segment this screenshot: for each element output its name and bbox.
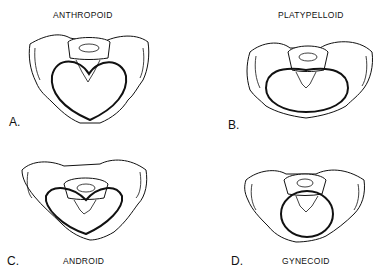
anthropoid-pelvis (29, 35, 149, 123)
android-pelvis (22, 160, 147, 240)
platypelloid-pelvis (247, 42, 373, 118)
pelvis-diagram (0, 0, 384, 268)
gynecoid-pelvis (245, 170, 365, 242)
